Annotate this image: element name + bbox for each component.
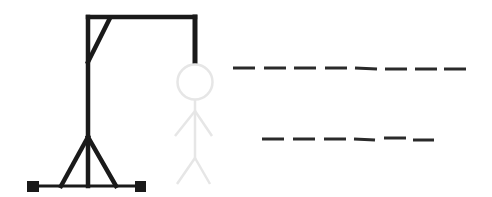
gallows-leg-left <box>61 137 88 186</box>
figure-left-arm <box>175 111 195 136</box>
gallows <box>27 17 195 192</box>
hangman-board <box>0 0 492 197</box>
base-foot-right <box>135 181 146 192</box>
base-foot-left <box>27 181 39 192</box>
letter-blank <box>354 139 375 140</box>
word-blanks-line-1 <box>233 68 466 69</box>
figure-right-leg <box>195 158 210 184</box>
hanged-figure <box>175 65 213 185</box>
figure-head <box>178 65 213 100</box>
word-blanks-line-2 <box>262 138 434 140</box>
figure-left-leg <box>177 158 195 184</box>
gallows-brace <box>88 18 110 62</box>
letter-blank <box>355 68 377 69</box>
figure-right-arm <box>195 111 212 136</box>
gallows-leg-right <box>88 137 116 186</box>
